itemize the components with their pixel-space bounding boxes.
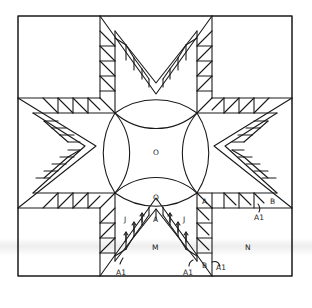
corner-diagonal — [100, 193, 115, 208]
hst-top-right-strip — [197, 31, 212, 91]
melon-left-outer — [103, 113, 115, 193]
label-corner-left: J — [123, 215, 126, 224]
label-end-triangle-right: B — [270, 197, 275, 206]
melon-top-inner — [115, 113, 197, 128]
callout-leader — [189, 260, 193, 266]
label-melon-bottom: Q — [153, 193, 159, 202]
star-point-right-outer — [214, 98, 292, 208]
star-point-top-inner — [115, 31, 197, 83]
callout-leader — [120, 258, 123, 264]
hst-bottom-right-strip — [197, 208, 212, 253]
star-point-left-inner — [33, 113, 85, 193]
corner-diagonal — [100, 98, 115, 113]
hst-right-arrow — [232, 121, 276, 178]
label-hst-a: A — [202, 197, 208, 206]
hst-right-top-strip — [212, 98, 269, 113]
label-diamond-tip: A — [153, 215, 159, 224]
label-corner-right: J — [182, 215, 185, 224]
quilt-block-svg: O Q J J A A M N B B A1 A1 A1 A1 — [0, 0, 312, 308]
melon-right-inner — [182, 113, 197, 193]
hst-left-top-strip — [43, 98, 100, 113]
hst-left-bottom-strip — [43, 193, 100, 208]
hst-bottom-left-strip — [100, 208, 115, 253]
hst-top-v — [115, 38, 197, 87]
hst-right-bottom-strip — [212, 193, 264, 208]
quilt-diagram: O Q J J A A M N B B A1 A1 A1 A1 — [0, 0, 312, 308]
label-callout-left: A1 — [116, 268, 126, 277]
label-callout-right-lower: A1 — [216, 263, 226, 272]
star-point-left-outer — [18, 98, 96, 208]
label-bottom-triangle: M — [152, 243, 158, 252]
label-center: O — [153, 148, 159, 157]
label-callout-right-upper: A1 — [254, 213, 264, 222]
label-end-triangle-bottom: B — [202, 261, 207, 270]
outer-border — [18, 16, 292, 276]
label-corner-square: N — [245, 243, 251, 252]
hst-left-arrow — [36, 121, 80, 178]
melon-left-inner — [115, 113, 130, 193]
melon-bottom-inner — [115, 178, 197, 193]
melon-right-outer — [197, 113, 209, 193]
hst-top-left-strip — [100, 31, 115, 91]
label-callout-mid: A1 — [183, 268, 193, 277]
corner-diagonal — [197, 98, 212, 113]
star-point-right-inner — [225, 113, 277, 193]
melon-top-outer — [115, 100, 197, 113]
